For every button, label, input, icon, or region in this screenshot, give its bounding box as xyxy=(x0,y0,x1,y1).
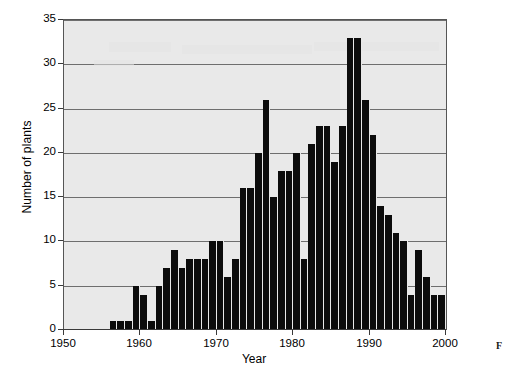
x-axis-label: Year xyxy=(63,352,445,366)
bar-chart-figure: Number of plants 05101520253035 19501960… xyxy=(0,0,508,385)
bar xyxy=(217,241,225,330)
bar xyxy=(194,259,202,330)
bar xyxy=(255,153,263,330)
x-tick-mark xyxy=(139,329,140,335)
x-tick-label: 1970 xyxy=(194,337,238,349)
bar xyxy=(347,38,355,330)
bar xyxy=(140,295,148,330)
bar xyxy=(415,250,423,330)
y-tick-label: 15 xyxy=(30,189,56,201)
y-tick-mark xyxy=(58,108,63,109)
gridline xyxy=(64,109,446,110)
y-tick-label: 30 xyxy=(30,56,56,68)
bar xyxy=(293,153,301,330)
y-tick-label: 25 xyxy=(30,101,56,113)
y-tick-label: 0 xyxy=(30,322,56,334)
y-tick-mark xyxy=(58,152,63,153)
bar xyxy=(186,259,194,330)
bar xyxy=(324,126,332,330)
bar xyxy=(431,295,439,330)
x-tick-label: 1980 xyxy=(270,337,314,349)
scan-artifact xyxy=(182,45,312,54)
bar xyxy=(240,188,248,330)
x-tick-mark xyxy=(369,329,370,335)
y-tick-label: 10 xyxy=(30,233,56,245)
bar xyxy=(316,126,324,330)
bar xyxy=(385,215,393,330)
bar xyxy=(393,233,401,330)
y-tick-label: 5 xyxy=(30,278,56,290)
bar xyxy=(224,277,232,330)
x-tick-label: 2000 xyxy=(423,337,467,349)
bar xyxy=(156,286,164,330)
bar xyxy=(179,268,187,330)
y-tick-mark xyxy=(58,19,63,20)
gridline xyxy=(64,64,446,65)
bar xyxy=(301,259,309,330)
bar xyxy=(171,250,179,330)
bar xyxy=(232,259,240,330)
bar xyxy=(362,100,370,330)
plot-area xyxy=(63,19,447,330)
bar xyxy=(202,259,210,330)
bar xyxy=(286,171,294,330)
x-tick-label: 1950 xyxy=(41,337,85,349)
x-tick-mark xyxy=(63,329,64,335)
x-tick-mark xyxy=(216,329,217,335)
bar xyxy=(133,286,141,330)
bar xyxy=(438,295,446,330)
bar xyxy=(370,135,378,330)
scan-artifact xyxy=(94,60,134,66)
bar xyxy=(400,241,408,330)
x-tick-mark xyxy=(292,329,293,335)
x-axis-line xyxy=(63,329,446,330)
y-tick-mark xyxy=(58,285,63,286)
bar xyxy=(209,241,217,330)
y-tick-mark xyxy=(58,63,63,64)
y-tick-mark xyxy=(58,240,63,241)
scan-artifact xyxy=(314,42,439,51)
bar xyxy=(339,126,347,330)
scan-artifact xyxy=(109,42,171,52)
x-tick-label: 1990 xyxy=(347,337,391,349)
bar xyxy=(331,162,339,330)
plot-inner xyxy=(64,20,446,330)
gridline xyxy=(64,20,446,21)
bar xyxy=(354,38,362,330)
y-tick-mark xyxy=(58,196,63,197)
bar xyxy=(408,295,416,330)
bar xyxy=(270,197,278,330)
bar xyxy=(423,277,431,330)
y-tick-label: 35 xyxy=(30,12,56,24)
bar xyxy=(308,144,316,330)
y-tick-label: 20 xyxy=(30,145,56,157)
bar xyxy=(377,206,385,330)
side-caption: F xyxy=(496,340,508,351)
bar xyxy=(278,171,286,330)
x-tick-mark xyxy=(445,329,446,335)
bar xyxy=(247,188,255,330)
bar xyxy=(163,268,171,330)
bar xyxy=(263,100,271,330)
x-tick-label: 1960 xyxy=(117,337,161,349)
